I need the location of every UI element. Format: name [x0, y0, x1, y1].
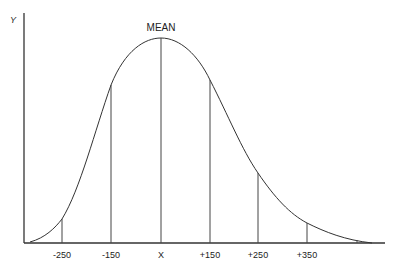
- tick-label-mean-x: X: [158, 250, 164, 260]
- mean-label: MEAN: [147, 22, 176, 33]
- y-axis-label: Y: [10, 15, 17, 25]
- tick-label-plus-250: +250: [248, 250, 268, 260]
- bell-curve-diagram: Y MEAN -250 -150 X +150 +250 +350: [0, 0, 397, 273]
- normal-distribution-curve: [30, 38, 372, 243]
- tick-label-plus-350: +350: [297, 250, 317, 260]
- tick-label-minus-150: -150: [102, 250, 120, 260]
- tick-label-minus-250: -250: [53, 250, 71, 260]
- tick-label-plus-150: +150: [200, 250, 220, 260]
